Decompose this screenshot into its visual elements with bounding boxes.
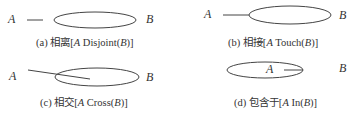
caption-relation: Cross( [84,97,114,108]
label-a: A [9,69,16,84]
caption-prefix: (b) 相接[ [228,37,266,48]
ellipse-b-disjoint [54,12,136,28]
caption-relation: Touch( [273,37,305,48]
label-a: A [204,7,211,22]
caption-suffix: )] [127,37,134,48]
label-b: B [146,70,153,85]
caption-touch: (b) 相接[A Touch(B)] [228,34,318,49]
label-b: B [339,61,346,76]
caption-relation: Disjoint( [80,37,120,48]
caption-prefix: (a) 相离[ [36,37,74,48]
label-b: B [339,8,346,23]
caption-prefix: (c) 相交[ [40,97,78,108]
caption-in: (d) 包含于[A In(B)] [234,94,317,109]
ellipse-b-cross [55,68,139,86]
caption-disjoint: (a) 相离[A Disjoint(B)] [36,34,134,49]
caption-cross: (c) 相交[A Cross(B)] [40,94,128,109]
caption-relation: In( [289,97,304,108]
caption-prefix: (d) 包含于[ [234,97,282,108]
label-a: A [266,62,273,77]
caption-suffix: )] [310,97,317,108]
label-a: A [8,12,15,27]
caption-suffix: )] [311,37,318,48]
caption-suffix: )] [121,97,128,108]
ellipse-b-touch [249,6,331,24]
label-b: B [146,12,153,27]
line-a-cross [28,70,90,79]
